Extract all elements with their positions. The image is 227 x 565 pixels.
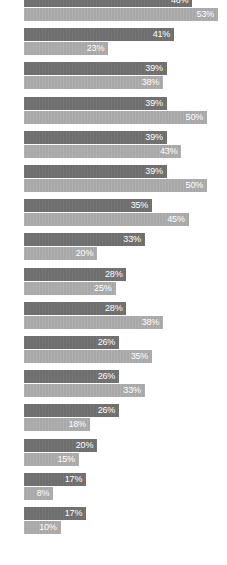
bar-value-label: 26%	[98, 406, 119, 415]
chart-row: 20%15%	[0, 439, 227, 466]
chart-row: 39%38%	[0, 62, 227, 89]
chart-row: 28%38%	[0, 302, 227, 329]
bar-series_1: 39%	[24, 62, 167, 75]
bar-value-label: 8%	[37, 489, 54, 498]
chart-row: 26%33%	[0, 370, 227, 397]
chart-row: 46%53%	[0, 0, 227, 21]
bar-value-label: 26%	[98, 372, 119, 381]
bar-value-label: 39%	[145, 99, 166, 108]
chart-row: 26%35%	[0, 336, 227, 363]
bar-series_1: 17%	[24, 473, 86, 486]
chart-row: 35%45%	[0, 199, 227, 226]
bar-series_1: 39%	[24, 97, 167, 110]
bar-series_2: 20%	[24, 247, 97, 260]
bar-series_2: 8%	[24, 487, 53, 500]
bar-value-label: 35%	[131, 201, 152, 210]
chart-row: 26%18%	[0, 404, 227, 431]
bar-series_1: 17%	[24, 507, 86, 520]
bar-value-label: 50%	[186, 181, 207, 190]
bar-series_2: 35%	[24, 350, 152, 363]
chart-row: 17%8%	[0, 473, 227, 500]
bar-series_1: 33%	[24, 233, 145, 246]
bar-value-label: 18%	[68, 420, 89, 429]
bar-value-label: 15%	[57, 455, 78, 464]
bar-series_1: 39%	[24, 165, 167, 178]
chart-row: 39%43%	[0, 131, 227, 158]
bar-value-label: 17%	[65, 475, 86, 484]
bar-value-label: 17%	[65, 509, 86, 518]
bar-value-label: 46%	[171, 0, 192, 5]
chart-row: 39%50%	[0, 165, 227, 192]
bar-series_1: 28%	[24, 268, 126, 281]
bar-value-label: 26%	[98, 338, 119, 347]
bar-series_1: 41%	[24, 28, 174, 41]
bar-series_2: 45%	[24, 213, 189, 226]
bar-series_2: 23%	[24, 42, 108, 55]
bar-value-label: 20%	[76, 441, 97, 450]
bar-value-label: 50%	[186, 113, 207, 122]
bar-value-label: 41%	[153, 30, 174, 39]
bar-value-label: 25%	[94, 284, 115, 293]
paired-bar-chart: 46%53%41%23%39%38%39%50%39%43%39%50%35%4…	[0, 0, 227, 565]
bar-value-label: 43%	[160, 147, 181, 156]
chart-row: 41%23%	[0, 28, 227, 55]
bar-series_2: 53%	[24, 8, 218, 21]
bar-series_2: 50%	[24, 111, 207, 124]
bar-value-label: 10%	[39, 523, 60, 532]
bar-series_1: 39%	[24, 131, 167, 144]
bar-series_2: 38%	[24, 316, 163, 329]
bar-series_2: 10%	[24, 521, 61, 534]
bar-value-label: 45%	[167, 215, 188, 224]
bar-series_1: 28%	[24, 302, 126, 315]
bar-series_2: 33%	[24, 384, 145, 397]
chart-row: 39%50%	[0, 97, 227, 124]
bar-value-label: 39%	[145, 133, 166, 142]
bar-value-label: 39%	[145, 167, 166, 176]
bar-series_2: 25%	[24, 282, 116, 295]
bar-series_2: 50%	[24, 179, 207, 192]
bar-series_1: 26%	[24, 404, 119, 417]
bar-value-label: 53%	[197, 10, 218, 19]
chart-row: 33%20%	[0, 233, 227, 260]
bar-value-label: 28%	[105, 304, 126, 313]
bar-series_1: 35%	[24, 199, 152, 212]
bar-series_2: 18%	[24, 418, 90, 431]
bar-series_1: 20%	[24, 439, 97, 452]
bar-value-label: 35%	[131, 352, 152, 361]
chart-row: 28%25%	[0, 268, 227, 295]
bar-value-label: 38%	[142, 318, 163, 327]
bar-series_2: 38%	[24, 76, 163, 89]
bar-value-label: 20%	[76, 249, 97, 258]
bar-series_1: 26%	[24, 370, 119, 383]
bar-series_1: 46%	[24, 0, 192, 7]
bar-series_2: 15%	[24, 453, 79, 466]
bar-series_1: 26%	[24, 336, 119, 349]
chart-row: 17%10%	[0, 507, 227, 534]
bar-value-label: 38%	[142, 78, 163, 87]
bar-value-label: 28%	[105, 270, 126, 279]
bar-value-label: 39%	[145, 64, 166, 73]
bar-value-label: 23%	[87, 44, 108, 53]
bar-series_2: 43%	[24, 145, 181, 158]
bar-value-label: 33%	[123, 235, 144, 244]
bar-value-label: 33%	[123, 386, 144, 395]
